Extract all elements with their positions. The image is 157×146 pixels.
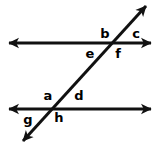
angle-diagram: b c e f a d g h [0,0,157,146]
angle-label-f: f [115,47,121,60]
angle-label-d: d [74,89,83,102]
angle-label-g: g [23,113,32,126]
angle-label-c: c [132,27,140,40]
angle-label-h: h [54,111,63,124]
transversal-line [23,6,146,141]
angle-label-b: b [100,27,109,40]
angle-label-e: e [86,47,95,60]
angle-label-a: a [44,89,53,102]
